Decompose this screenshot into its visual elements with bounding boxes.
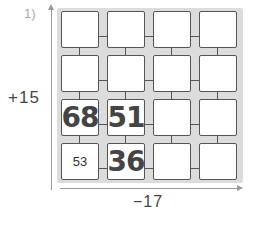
cell-value: 68 xyxy=(62,101,99,134)
grid-cell-r0-c0[interactable] xyxy=(61,11,99,48)
connector xyxy=(191,36,199,37)
connector xyxy=(125,48,126,56)
connector xyxy=(191,124,199,125)
connector xyxy=(171,92,172,100)
grid-cell-r0-c1[interactable] xyxy=(107,11,145,48)
connector xyxy=(99,124,107,125)
grid-cell-r1-c1[interactable] xyxy=(107,55,145,92)
grid-cell-r3-c1[interactable]: 36 xyxy=(107,143,145,180)
connector xyxy=(79,136,80,144)
connector xyxy=(99,168,107,169)
horizontal-arrow-icon xyxy=(60,188,240,189)
given-value: 53 xyxy=(73,154,87,169)
connector xyxy=(145,124,153,125)
connector xyxy=(79,92,80,100)
grid-cell-r1-c3[interactable] xyxy=(199,55,237,92)
grid-cell-r2-c1[interactable]: 51 xyxy=(107,99,145,136)
grid-cell-r0-c2[interactable] xyxy=(153,11,191,48)
grid-cell-r1-c0[interactable] xyxy=(61,55,99,92)
grid-cell-r3-c2[interactable] xyxy=(153,143,191,180)
vertical-arrow-icon xyxy=(51,6,52,190)
grid-cell-r3-c3[interactable] xyxy=(199,143,237,180)
grid-cell-r2-c2[interactable] xyxy=(153,99,191,136)
connector xyxy=(191,80,199,81)
connector xyxy=(145,80,153,81)
grid-cell-r1-c2[interactable] xyxy=(153,55,191,92)
connector xyxy=(145,36,153,37)
connector xyxy=(79,48,80,56)
connector xyxy=(125,136,126,144)
column-operation-label: −17 xyxy=(133,193,163,211)
connector xyxy=(217,136,218,144)
connector xyxy=(171,136,172,144)
problem-number: 1) xyxy=(24,6,36,21)
connector xyxy=(217,92,218,100)
grid-cell-r3-c0: 53 xyxy=(61,143,99,180)
connector xyxy=(99,36,107,37)
row-operation-label: +15 xyxy=(8,88,40,108)
cell-value: 36 xyxy=(108,145,145,178)
connector xyxy=(171,48,172,56)
cell-value: 51 xyxy=(108,101,145,134)
connector xyxy=(145,168,153,169)
grid-cell-r0-c3[interactable] xyxy=(199,11,237,48)
connector xyxy=(99,80,107,81)
grid-cell-r2-c0[interactable]: 68 xyxy=(61,99,99,136)
number-grid: 68 51 53 36 xyxy=(57,8,243,183)
connector xyxy=(217,48,218,56)
grid-cell-r2-c3[interactable] xyxy=(199,99,237,136)
connector xyxy=(191,168,199,169)
connector xyxy=(125,92,126,100)
